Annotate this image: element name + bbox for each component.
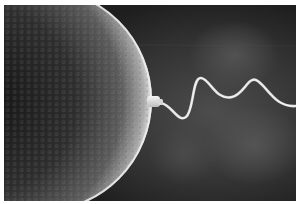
- fertilization-illustration: [4, 5, 296, 201]
- photo: [4, 5, 296, 201]
